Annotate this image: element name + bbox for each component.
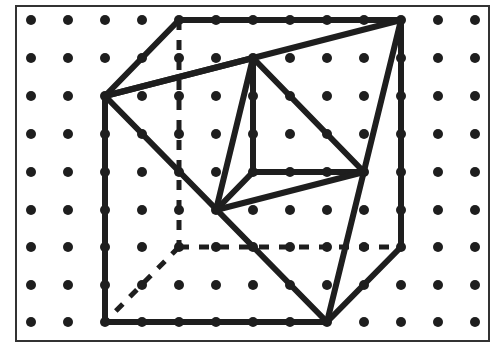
- grid-dot: [211, 91, 221, 101]
- grid-dot: [470, 91, 480, 101]
- grid-dot: [359, 91, 369, 101]
- grid-dot: [470, 280, 480, 290]
- grid-dot: [322, 53, 332, 63]
- grid-dot: [396, 280, 406, 290]
- grid-dot: [322, 280, 332, 290]
- grid-dot: [433, 317, 443, 327]
- grid-dot: [396, 317, 406, 327]
- grid-dot: [359, 317, 369, 327]
- grid-dot: [211, 167, 221, 177]
- grid-dot: [174, 91, 184, 101]
- grid-dot: [359, 53, 369, 63]
- grid-dot: [433, 91, 443, 101]
- grid-dot: [100, 15, 110, 25]
- grid-dot: [433, 167, 443, 177]
- grid-dot: [100, 53, 110, 63]
- grid-dot: [248, 280, 258, 290]
- grid-dot: [433, 280, 443, 290]
- grid-dot: [211, 280, 221, 290]
- grid-dot: [137, 91, 147, 101]
- grid-dot: [433, 205, 443, 215]
- dot-paper-figure: [0, 0, 491, 346]
- grid-dot: [470, 242, 480, 252]
- grid-dot: [470, 167, 480, 177]
- grid-dot: [63, 280, 73, 290]
- grid-dot: [26, 129, 36, 139]
- cube-diagram: [0, 0, 491, 346]
- grid-dot: [137, 15, 147, 25]
- grid-dot: [63, 242, 73, 252]
- grid-dot: [211, 53, 221, 63]
- grid-dot: [63, 15, 73, 25]
- grid-dot: [26, 242, 36, 252]
- grid-dot: [26, 280, 36, 290]
- edge-DF: [253, 58, 364, 172]
- grid-dot: [137, 167, 147, 177]
- grid-dot: [470, 205, 480, 215]
- grid-dot: [359, 205, 369, 215]
- grid-dot: [63, 53, 73, 63]
- grid-dot: [322, 91, 332, 101]
- grid-dot: [63, 205, 73, 215]
- grid-dot: [26, 205, 36, 215]
- grid-dot: [248, 205, 258, 215]
- grid-dot: [433, 242, 443, 252]
- grid-dot: [26, 53, 36, 63]
- grid-dot: [63, 91, 73, 101]
- grid-dot: [359, 129, 369, 139]
- grid-dot: [137, 242, 147, 252]
- grid-dot: [63, 167, 73, 177]
- grid-dot: [174, 280, 184, 290]
- grid-dot: [433, 15, 443, 25]
- grid-dot: [26, 91, 36, 101]
- grid-dot: [63, 129, 73, 139]
- grid-dot: [63, 317, 73, 327]
- grid-dot: [470, 317, 480, 327]
- grid-dot: [470, 53, 480, 63]
- grid-dot: [211, 129, 221, 139]
- grid-dot: [322, 205, 332, 215]
- grid-dot: [470, 15, 480, 25]
- grid-dot: [26, 167, 36, 177]
- grid-dot: [174, 129, 184, 139]
- grid-dot: [285, 53, 295, 63]
- grid-dot: [137, 205, 147, 215]
- grid-dot: [433, 53, 443, 63]
- grid-dot: [433, 129, 443, 139]
- grid-dot: [470, 129, 480, 139]
- grid-dot: [285, 205, 295, 215]
- grid-dot: [26, 317, 36, 327]
- grid-dot: [26, 15, 36, 25]
- grid-dot: [285, 129, 295, 139]
